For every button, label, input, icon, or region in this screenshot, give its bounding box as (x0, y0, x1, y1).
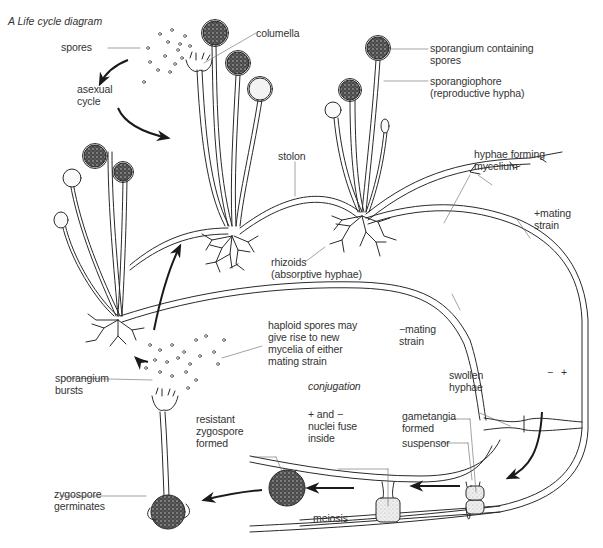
colony-left (54, 144, 486, 421)
conjugation-hyphae (250, 440, 500, 532)
colony-top-right (300, 36, 588, 527)
label-stolon: stolon (278, 150, 305, 162)
label-suspensor: suspensor (402, 437, 450, 449)
label-resistant-zygospore: resistant zygospore formed (196, 413, 244, 449)
diagram-title: A Life cycle diagram (8, 15, 102, 27)
spore-cloud-top (143, 29, 192, 84)
label-haploid-spores: haploid spores may give rise to new myce… (268, 319, 357, 367)
label-spores: spores (61, 41, 92, 53)
label-minus-sign: − (547, 366, 553, 378)
spore-cloud-bottom (145, 335, 226, 390)
label-zygospore-germinates: zygospore germinates (54, 488, 105, 512)
label-sporangiophore: sporangiophore (reproductive hypha) (430, 75, 524, 99)
label-hyphae-forming-mycelium: hyphae forming mycelium (474, 148, 545, 172)
label-gametangia-formed: gametangia formed (402, 410, 456, 434)
swollen-hyphae (484, 416, 582, 432)
label-asexual-cycle: asexual cycle (77, 83, 113, 107)
label-meiosis: meiosis (313, 512, 348, 524)
label-conjugation: conjugation (308, 380, 361, 392)
germinating-zygospore (148, 388, 190, 529)
label-plus-mating-strain: +mating strain (534, 207, 571, 231)
life-cycle-diagram: A Life cycle diagram spores asexual cycl… (0, 0, 603, 548)
label-columella: columella (256, 27, 299, 39)
label-sporangium-bursts: sporangium bursts (55, 372, 109, 396)
label-nuclei-fuse: + and − nuclei fuse inside (308, 408, 357, 444)
label-rhizoids: rhizoids (absorptive hyphae) (271, 256, 362, 280)
label-plus-sign: + (561, 366, 567, 378)
label-minus-mating-strain: −mating strain (399, 323, 436, 347)
label-swollen-hyphae: swollen hyphae (449, 369, 483, 393)
label-sporangium-containing-spores: sporangium containing spores (430, 42, 534, 66)
